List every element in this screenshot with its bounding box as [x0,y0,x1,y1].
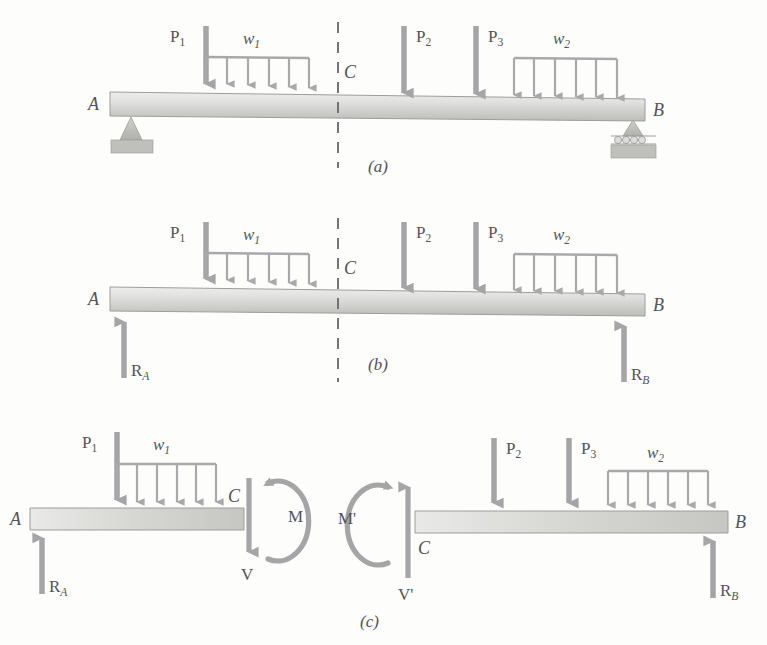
label-w2-c: w2 [647,443,664,465]
reaction-RB-c: RB [713,541,738,603]
label-M: M [288,507,303,526]
panel-b: A B C P1 w1 P2 P3 [87,218,664,387]
panel-c-left-segment: A C P1 w1 RA V [9,432,309,599]
panel-c-right-segment: C B V' M' P2 P3 w2 [338,438,746,604]
panel-a: A B C P1 w1 P2 P3 [87,22,664,176]
label-C-c-right: C [418,538,431,558]
label-P3-a: P3 [488,27,503,49]
label-A-b: A [87,289,100,309]
label-RA-c: RA [49,577,68,599]
label-B-a: B [653,100,664,120]
label-w2-b: w2 [553,225,570,247]
reaction-RB-b: RB [624,326,649,387]
label-V: V [241,565,254,584]
caption-b: (b) [368,355,388,374]
label-P1-a: P1 [170,27,185,49]
internal-shear-Vprime: V' [398,487,413,604]
beam-c-right [415,511,728,533]
label-P3-c: P3 [581,439,596,461]
point-load-P1-c: P1 [82,432,117,500]
internal-shear-V: V [241,478,254,584]
label-RB-b: RB [631,365,649,387]
internal-moment-M: M [268,481,309,561]
label-P3-b: P3 [488,223,503,245]
figure-canvas: A B C P1 w1 P2 P3 [0,0,767,645]
beam-c-left [30,508,244,530]
label-B-c: B [735,512,746,532]
reaction-RA-c: RA [42,538,68,599]
label-P2-b: P2 [416,223,431,245]
pin-support-a [111,117,153,153]
label-w1-c: w1 [153,435,170,457]
distributed-load-w1-c: w1 [117,435,216,502]
label-C-a: C [344,62,357,82]
internal-moment-Mprime: M' [338,485,388,565]
point-load-P3-a: P3 [476,26,503,94]
label-A-a: A [87,94,100,114]
point-load-P1-a: P1 [170,26,206,84]
label-P2-c: P2 [506,439,521,461]
label-P1-b: P1 [170,223,185,245]
beam-b [110,287,645,316]
point-load-P3-c: P3 [569,438,596,503]
caption-a: (a) [368,157,388,176]
label-Vprime: V' [398,585,413,604]
label-A-c: A [9,509,22,529]
label-C-c-left: C [228,486,241,506]
label-RA-b: RA [131,361,150,383]
point-load-P2-c: P2 [494,438,521,503]
label-w1-a: w1 [243,29,260,51]
point-load-P2-b: P2 [404,222,431,288]
distributed-load-w1-a: w1 [206,29,309,88]
label-C-b: C [344,258,357,278]
reaction-RA-b: RA [124,322,150,383]
point-load-P1-b: P1 [170,222,206,279]
caption-c: (c) [360,612,379,631]
label-RB-c: RB [720,581,738,603]
label-w2-a: w2 [553,29,570,51]
label-B-b: B [653,295,664,315]
label-w1-b: w1 [243,225,260,247]
distributed-load-w2-a: w2 [514,29,617,98]
distributed-load-w1-b: w1 [206,225,309,284]
label-P2-a: P2 [416,27,431,49]
roller-support-a [611,120,656,158]
point-load-P2-a: P2 [404,26,431,93]
distributed-load-w2-c: w2 [608,443,708,505]
beam-a [110,92,645,121]
distributed-load-w2-b: w2 [514,225,617,293]
label-P1-c: P1 [82,433,97,455]
point-load-P3-b: P3 [476,222,503,289]
label-Mprime: M' [338,509,356,528]
